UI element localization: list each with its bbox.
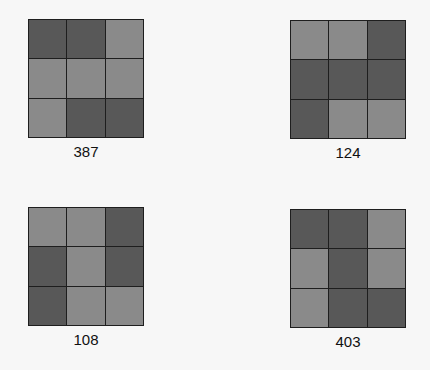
grid-cell-light (329, 21, 366, 59)
panel-124: 124 (290, 20, 406, 161)
grid-cell-light (329, 100, 366, 138)
grid-cell-dark (67, 20, 104, 58)
panel-label: 108 (28, 331, 144, 348)
grid-cell-light (291, 249, 328, 287)
panel-label: 387 (28, 143, 144, 160)
grid-cell-dark (29, 247, 66, 285)
grid-cell-light (368, 249, 405, 287)
grid-cell-dark (329, 60, 366, 98)
grid-cell-dark (106, 99, 143, 137)
grid-cell-light (106, 287, 143, 325)
panel-387: 387 (28, 19, 144, 160)
grid-cell-light (106, 59, 143, 97)
grid-cell-dark (291, 60, 328, 98)
grid-cell-light (67, 208, 104, 246)
grid (28, 207, 144, 326)
grid-cell-dark (368, 60, 405, 98)
grid (290, 209, 406, 328)
grid-cell-light (29, 59, 66, 97)
grid (28, 19, 144, 138)
grid-cell-light (106, 20, 143, 58)
grid-cell-light (291, 289, 328, 327)
panel-label: 403 (290, 333, 406, 350)
grid-cell-light (368, 100, 405, 138)
grid-cell-dark (329, 249, 366, 287)
grid-cell-light (368, 210, 405, 248)
panel-label: 124 (290, 144, 406, 161)
panel-403: 403 (290, 209, 406, 350)
grid-cell-dark (29, 287, 66, 325)
grid-cell-light (67, 247, 104, 285)
grid-cell-dark (106, 247, 143, 285)
grid-cell-dark (106, 208, 143, 246)
grid-cell-light (291, 21, 328, 59)
grid-cell-dark (329, 289, 366, 327)
grid (290, 20, 406, 139)
grid-cell-dark (291, 100, 328, 138)
grid-cell-dark (291, 210, 328, 248)
grid-cell-light (67, 59, 104, 97)
grid-cell-dark (329, 210, 366, 248)
grid-cell-dark (368, 289, 405, 327)
grid-cell-light (29, 99, 66, 137)
grid-cell-light (67, 287, 104, 325)
panel-108: 108 (28, 207, 144, 348)
grid-cell-dark (29, 20, 66, 58)
grid-cell-light (29, 208, 66, 246)
grid-cell-dark (67, 99, 104, 137)
grid-cell-dark (368, 21, 405, 59)
